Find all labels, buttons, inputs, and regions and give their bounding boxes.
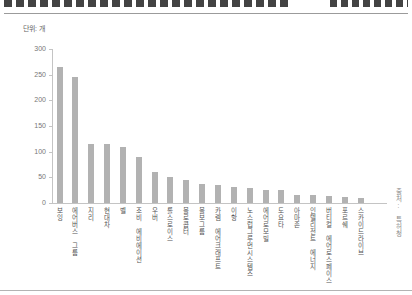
x-axis-label: 이항 (228, 207, 238, 289)
bar (120, 147, 126, 203)
y-tick-label: 0 (16, 199, 46, 206)
footer-divider (0, 290, 412, 291)
x-axis-label: 도요타 (275, 207, 285, 289)
bar (263, 190, 269, 203)
bar (57, 67, 63, 203)
y-tick-mark (49, 203, 52, 204)
y-tick-label: 250 (16, 71, 46, 78)
bar (278, 190, 284, 203)
x-axis-label: 벨 (117, 207, 127, 289)
bar (215, 185, 221, 203)
bar (104, 144, 110, 203)
x-axis-label: 롤스로이스 (164, 207, 174, 289)
y-tick-label: 50 (16, 173, 46, 180)
x-axis-label: 볼보그룹 (196, 207, 206, 289)
bar (231, 187, 237, 203)
x-axis-label: 포르쉐 (339, 207, 349, 289)
header-divider (4, 13, 408, 14)
x-axis-label: 지리 (85, 207, 95, 289)
bar (167, 177, 173, 203)
x-axis-label: 에어로모빌 (260, 207, 270, 289)
y-tick-label: 300 (16, 45, 46, 52)
bar (294, 195, 300, 203)
y-tick-mark (49, 152, 52, 153)
bar (358, 198, 364, 203)
bar (310, 195, 316, 203)
x-axis-label: 노스럽그루먼시스템즈 (244, 207, 254, 289)
x-axis-label: 아마존 (291, 207, 301, 289)
unit-label: 단위: 개 (23, 23, 45, 33)
bar (326, 196, 332, 203)
bar (342, 197, 348, 203)
y-tick-mark (49, 75, 52, 76)
source-label: 출처: 특허청 (394, 188, 402, 288)
x-axis-label: 카렘 에어크래프트 (212, 207, 222, 289)
y-tick-mark (49, 49, 52, 50)
x-axis-label: 인텔리전트 에너지 (307, 207, 317, 289)
plot-area (52, 49, 387, 204)
bar (72, 77, 78, 203)
x-axis-label: 버티컬 에어로스페이스 (323, 207, 333, 289)
y-tick-mark (49, 177, 52, 178)
patent-bar-chart-infographic: 단위: 개 050100150200250300 보잉에어버스 그룹지리현대차벨… (0, 0, 412, 295)
x-axis-label: 스카이드라이브 (355, 207, 365, 289)
y-tick-label: 150 (16, 122, 46, 129)
clipped-title-strip-right (330, 0, 408, 7)
x-axis-label: 우버 (149, 207, 159, 289)
x-axis-label: 에어버스 그룹 (69, 207, 79, 289)
bar (183, 180, 189, 203)
x-axis-label: 볼로콥터 (180, 207, 190, 289)
x-axis-label: 현대차 (101, 207, 111, 289)
bar (152, 172, 158, 203)
bar (247, 188, 253, 203)
y-tick-label: 200 (16, 96, 46, 103)
x-axis-label: 보잉 (54, 207, 64, 289)
y-tick-mark (49, 126, 52, 127)
y-tick-label: 100 (16, 148, 46, 155)
y-tick-mark (49, 100, 52, 101)
bar (136, 157, 142, 203)
clipped-title-strip (4, 0, 292, 7)
bar (88, 144, 94, 203)
bar (199, 184, 205, 204)
x-axis-label: 조비 에비에이션 (133, 207, 143, 289)
